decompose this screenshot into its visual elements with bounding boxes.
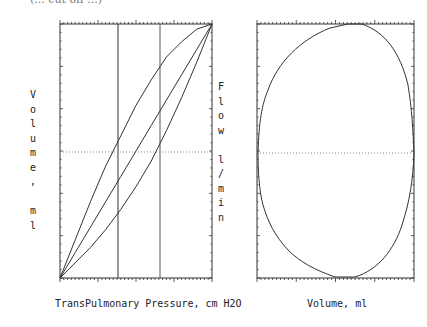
fv-plot bbox=[257, 20, 414, 282]
pv-plot bbox=[60, 20, 212, 282]
y-axis-label-volume: V o l u m e , m l bbox=[28, 88, 38, 233]
y-axis-label-flow: F l o w l / m i n bbox=[216, 80, 226, 225]
flow-volume-loop bbox=[258, 24, 414, 277]
x-axis-label-pressure: TransPulmonary Pressure, cm H2O bbox=[55, 298, 242, 309]
pv-curve-1 bbox=[60, 24, 212, 278]
plots-canvas bbox=[0, 0, 427, 327]
x-axis-label-volume: Volume, ml bbox=[307, 298, 367, 309]
figure: (... cut off ...) V o l u m e , m l F l … bbox=[0, 0, 427, 327]
